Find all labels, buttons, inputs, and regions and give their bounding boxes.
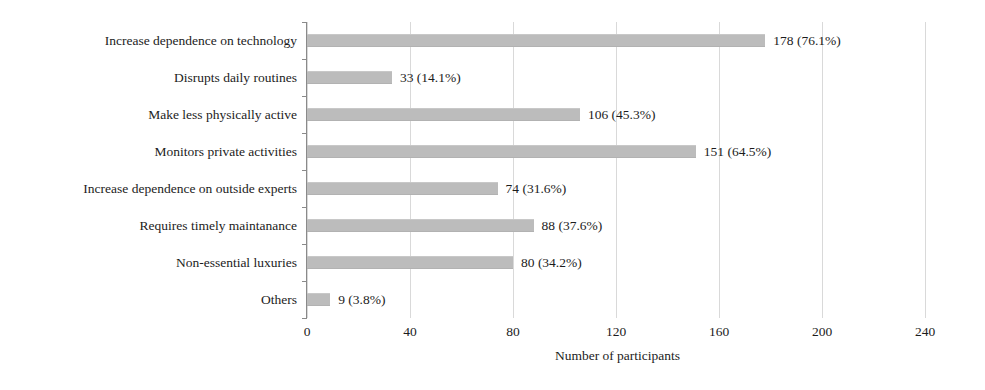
gridline-240 — [925, 22, 926, 318]
y-tick — [302, 22, 307, 23]
gridline-160 — [719, 22, 720, 318]
x-axis-title-text: Number of participants — [555, 348, 680, 364]
y-tick — [302, 133, 307, 134]
y-tick — [302, 59, 307, 60]
bar-value-label: 9 (3.8%) — [338, 293, 385, 307]
x-tick-label: 160 — [689, 324, 749, 339]
bar — [307, 34, 765, 47]
gridline-40 — [410, 22, 411, 318]
horizontal-bar-chart: Increase dependence on technologyDisrupt… — [0, 0, 985, 390]
x-tick-label: 120 — [586, 324, 646, 339]
x-tick-label: 200 — [792, 324, 852, 339]
bar-value-label: 80 (34.2%) — [521, 256, 582, 270]
bar — [307, 71, 392, 84]
category-label: Requires timely maintanance — [140, 219, 297, 233]
x-tick-label: 80 — [483, 324, 543, 339]
gridline-200 — [822, 22, 823, 318]
y-tick — [302, 318, 307, 319]
y-tick — [302, 170, 307, 171]
bar — [307, 256, 513, 269]
category-label: Increase dependence on technology — [105, 34, 297, 48]
bar — [307, 219, 534, 232]
bar — [307, 293, 330, 306]
category-label: Increase dependence on outside experts — [83, 182, 297, 196]
bar-value-label: 151 (64.5%) — [704, 145, 772, 159]
bar-value-label: 178 (76.1%) — [773, 34, 841, 48]
y-tick — [302, 244, 307, 245]
bar-value-label: 106 (45.3%) — [588, 108, 656, 122]
gridline-120 — [616, 22, 617, 318]
bar — [307, 145, 696, 158]
bar-value-label: 33 (14.1%) — [400, 71, 461, 85]
y-tick — [302, 281, 307, 282]
category-label: Others — [261, 293, 297, 307]
category-label: Make less physically active — [148, 108, 297, 122]
bar-value-label: 88 (37.6%) — [542, 219, 603, 233]
y-tick — [302, 96, 307, 97]
category-label: Monitors private activities — [155, 145, 297, 159]
bar — [307, 108, 580, 121]
category-label: Disrupts daily routines — [174, 71, 297, 85]
y-tick — [302, 207, 307, 208]
x-axis-title: Number of participants — [0, 348, 985, 364]
plot-area — [307, 22, 925, 318]
x-tick-label: 240 — [895, 324, 955, 339]
gridline-80 — [513, 22, 514, 318]
bar — [307, 182, 498, 195]
x-tick-label: 0 — [277, 324, 337, 339]
gridline-0 — [307, 22, 308, 318]
bar-value-label: 74 (31.6%) — [506, 182, 567, 196]
category-label: Non-essential luxuries — [176, 256, 297, 270]
x-tick-label: 40 — [380, 324, 440, 339]
